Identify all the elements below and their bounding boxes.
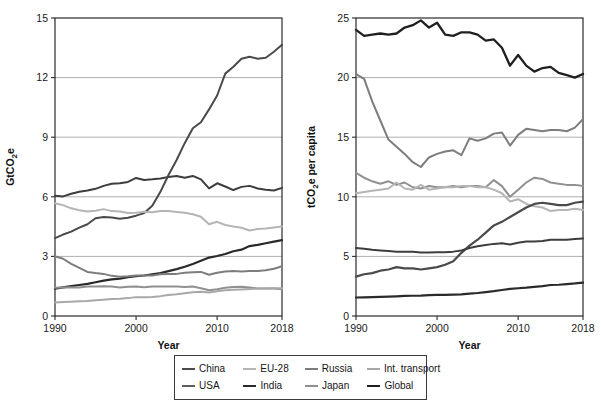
- svg-text:Year: Year: [157, 339, 179, 350]
- svg-text:1990: 1990: [43, 322, 67, 334]
- legend-entry-india[interactable]: India: [243, 380, 304, 391]
- svg-text:2000: 2000: [124, 322, 148, 334]
- svg-text:tCO2e per capita: tCO2e per capita: [305, 126, 320, 208]
- svg-text:12: 12: [36, 71, 48, 83]
- line-chart-absolute-emissions: 036912151990200020102018YearGtCO2e: [0, 0, 300, 350]
- legend-label-russia: Russia: [322, 363, 353, 374]
- svg-text:6: 6: [42, 191, 48, 203]
- legend-label-global: Global: [384, 380, 413, 391]
- legend-label-eu28: EU-28: [260, 363, 288, 374]
- svg-text:5: 5: [343, 250, 349, 262]
- svg-text:3: 3: [42, 250, 48, 262]
- svg-text:2018: 2018: [571, 322, 595, 334]
- svg-text:2010: 2010: [506, 322, 530, 334]
- legend-entry-usa[interactable]: USA: [182, 380, 243, 391]
- chart-legend: China EU-28 Russia Int. transport USA: [174, 355, 427, 400]
- svg-text:15: 15: [337, 131, 349, 143]
- svg-text:2000: 2000: [425, 322, 449, 334]
- legend-entry-global[interactable]: Global: [367, 380, 419, 391]
- legend-swatch-int-transport-icon: [367, 368, 380, 370]
- legend-label-japan: Japan: [322, 380, 349, 391]
- chart-panel-per-capita-emissions: 05101520251990200020102018YeartCO2e per …: [301, 0, 601, 350]
- svg-text:Year: Year: [458, 339, 480, 350]
- legend-swatch-japan-icon: [305, 385, 318, 387]
- legend-row-1: China EU-28 Russia Int. transport: [182, 360, 419, 377]
- svg-text:10: 10: [337, 191, 349, 203]
- legend-entry-int-transport[interactable]: Int. transport: [367, 363, 419, 374]
- legend-label-int-transport: Int. transport: [384, 363, 440, 374]
- legend-label-china: China: [199, 363, 225, 374]
- legend-swatch-india-icon: [243, 385, 256, 387]
- legend-swatch-russia-icon: [305, 368, 318, 370]
- svg-text:2018: 2018: [270, 322, 294, 334]
- svg-text:15: 15: [36, 12, 48, 24]
- svg-text:2010: 2010: [205, 322, 229, 334]
- svg-text:20: 20: [337, 71, 349, 83]
- legend-entry-eu28[interactable]: EU-28: [243, 363, 304, 374]
- svg-text:25: 25: [337, 12, 349, 24]
- legend-swatch-china-icon: [182, 368, 195, 370]
- chart-panel-absolute-emissions: 036912151990200020102018YearGtCO2e: [0, 0, 300, 350]
- legend-entry-china[interactable]: China: [182, 363, 243, 374]
- legend-swatch-global-icon: [367, 385, 380, 387]
- legend-label-usa: USA: [199, 380, 220, 391]
- svg-text:1990: 1990: [344, 322, 368, 334]
- legend-swatch-usa-icon: [182, 385, 195, 387]
- svg-text:0: 0: [343, 310, 349, 322]
- legend-swatch-eu28-icon: [243, 368, 256, 370]
- svg-text:9: 9: [42, 131, 48, 143]
- figure-container: 036912151990200020102018YearGtCO2e 05101…: [0, 0, 601, 406]
- line-chart-per-capita-emissions: 05101520251990200020102018YeartCO2e per …: [301, 0, 601, 350]
- svg-text:0: 0: [42, 310, 48, 322]
- svg-text:GtCO2e: GtCO2e: [4, 148, 19, 186]
- legend-label-india: India: [260, 380, 282, 391]
- legend-entry-russia[interactable]: Russia: [305, 363, 367, 374]
- legend-entry-japan[interactable]: Japan: [305, 380, 367, 391]
- legend-row-2: USA India Japan Global: [182, 377, 419, 394]
